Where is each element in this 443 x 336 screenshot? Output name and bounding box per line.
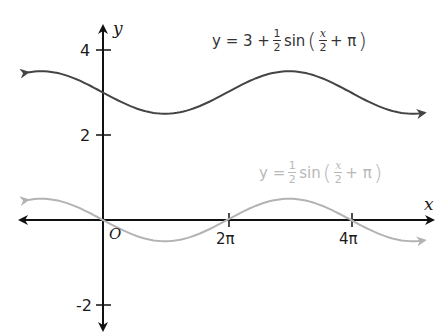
y-axis-label: y — [113, 20, 123, 37]
equation-lower-tail: + π — [345, 164, 371, 182]
equation-upper: y = 3 + 1 2 sin ( x 2 + π ) — [212, 28, 367, 53]
x-axis-label: x — [424, 196, 434, 213]
equation-lower: y = 1 2 sin ( x 2 + π ) — [259, 160, 382, 185]
equation-upper-tail: + π — [330, 32, 356, 50]
equation-upper-arg: x 2 — [319, 28, 327, 53]
equation-lower-arg: x 2 — [334, 160, 342, 185]
equation-lower-lhs: y = — [259, 164, 285, 182]
equation-upper-lhs: y = 3 + — [212, 32, 270, 50]
y-axis — [96, 26, 111, 330]
y-tick-label-4: 4 — [80, 43, 90, 59]
curve-upper-series — [28, 71, 425, 113]
y-tick-label-neg2: -2 — [76, 298, 92, 314]
origin-label: O — [109, 227, 121, 242]
x-tick-label-2pi: 2π — [216, 232, 235, 247]
equation-upper-fn: sin — [284, 32, 306, 50]
y-tick-label-2: 2 — [80, 128, 90, 144]
equation-lower-fn: sin — [299, 164, 321, 182]
x-tick-label-4pi: 4π — [339, 232, 358, 247]
equation-lower-fraction: 1 2 — [288, 160, 296, 185]
equation-upper-fraction: 1 2 — [273, 28, 281, 53]
